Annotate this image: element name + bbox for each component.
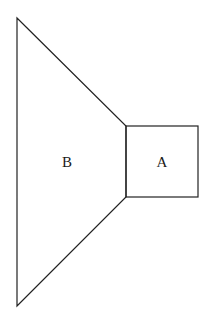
label-a: A (157, 154, 168, 170)
label-b: B (62, 154, 72, 170)
diagram-canvas: B A (0, 0, 208, 321)
